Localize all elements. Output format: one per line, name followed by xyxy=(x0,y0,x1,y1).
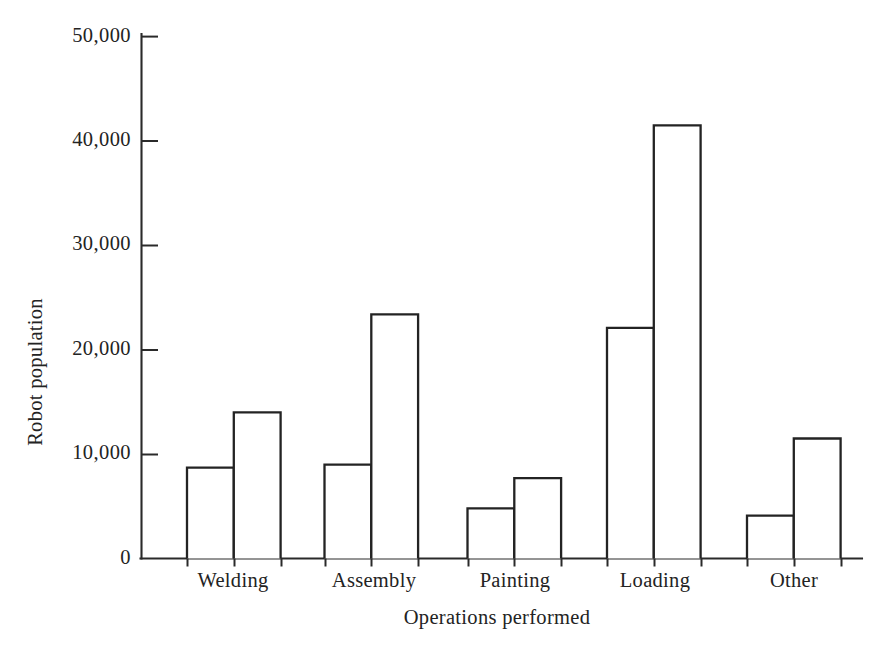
x-tick-label-other: Other xyxy=(770,569,818,591)
x-axis-title: Operations performed xyxy=(404,606,590,629)
bar-painting-first xyxy=(468,508,515,558)
x-axis-ticks xyxy=(188,559,842,567)
chart-canvas: Robot population 50,000 40,000 30,000 20… xyxy=(0,0,889,654)
x-tick-label-loading: Loading xyxy=(620,569,690,592)
x-axis-category-labels: Welding Assembly Painting Loading Other xyxy=(197,569,818,592)
bar-other-first xyxy=(747,516,794,559)
y-tick-label-40000: 40,000 xyxy=(72,128,131,150)
bars-layer xyxy=(187,125,841,558)
bar-assembly-first xyxy=(325,465,372,559)
x-tick-label-painting: Painting xyxy=(480,569,551,592)
y-tick-label-50000: 50,000 xyxy=(72,24,131,46)
y-tick-label-0: 0 xyxy=(120,546,131,568)
y-tick-label-30000: 30,000 xyxy=(72,232,131,254)
y-tick-label-20000: 20,000 xyxy=(72,337,131,359)
bar-welding-first xyxy=(187,468,234,559)
bar-painting-second xyxy=(514,478,561,558)
y-tick-label-10000: 10,000 xyxy=(72,441,131,463)
x-tick-label-assembly: Assembly xyxy=(332,569,417,592)
bar-chart-figure: Robot population 50,000 40,000 30,000 20… xyxy=(0,0,889,654)
y-axis-title: Robot population xyxy=(24,298,47,446)
bar-welding-second xyxy=(234,412,281,558)
y-axis-ticks: 50,000 40,000 30,000 20,000 10,000 0 xyxy=(72,24,158,568)
bar-loading-first xyxy=(607,328,654,559)
x-tick-label-welding: Welding xyxy=(197,569,268,592)
bar-assembly-second xyxy=(371,314,418,558)
bar-loading-second xyxy=(654,125,701,558)
bar-other-second xyxy=(794,439,841,559)
